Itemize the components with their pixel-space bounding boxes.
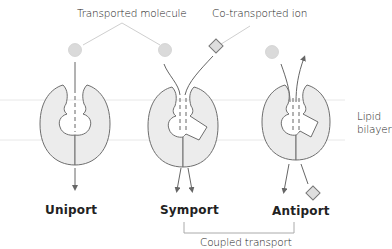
ion-icon [306, 186, 320, 200]
symport-label: Symport [160, 203, 219, 217]
uniport-label: Uniport [45, 203, 97, 217]
symport-transporter [148, 39, 223, 190]
uniport-transporter [40, 44, 110, 189]
molecule-icon [69, 44, 82, 57]
antiport-transporter [262, 46, 330, 201]
molecule-icon [159, 44, 172, 57]
molecule-icon [266, 46, 279, 59]
lipid-label-line1: Lipid [357, 110, 381, 122]
bilayer-label-line2: bilayer [357, 123, 392, 135]
antiport-label: Antiport [272, 204, 330, 218]
cotransported-ion-label: Co-transported ion [212, 7, 307, 19]
coupled-transport-label: Coupled transport [200, 236, 292, 248]
ion-icon [209, 39, 223, 53]
coupled-transport-bracket [184, 222, 294, 233]
transported-molecule-label: Transported molecule [77, 7, 187, 19]
